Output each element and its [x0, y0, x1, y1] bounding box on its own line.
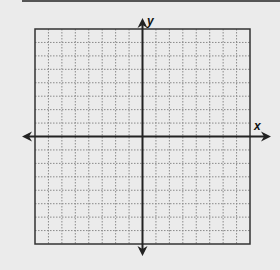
x-axis-label: x: [254, 119, 261, 133]
coordinate-plane: [0, 0, 280, 270]
y-axis-label: y: [147, 14, 154, 28]
